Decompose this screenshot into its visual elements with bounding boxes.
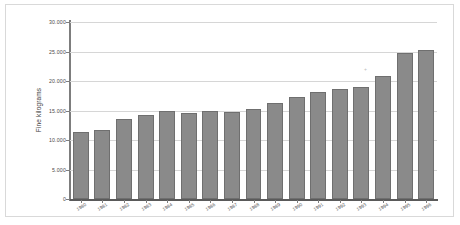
bar[interactable] [116,119,132,199]
y-tick-label: 5.000 [52,167,66,173]
bar[interactable] [310,92,326,199]
bar[interactable] [73,132,89,199]
bar[interactable] [94,130,110,199]
y-axis-label: Fine kilograms [35,88,42,132]
gridline [70,22,437,23]
y-tick-label: 20.000 [49,78,66,84]
chart-figure: Fine kilograms 05.00010.00015.00020.0002… [0,0,460,225]
bar[interactable] [246,109,262,199]
plot-area [70,22,437,199]
y-tick-label: 15.000 [49,108,66,114]
bar[interactable] [353,87,369,199]
bar[interactable] [267,103,283,199]
bar[interactable] [202,111,218,200]
bar[interactable] [397,53,413,199]
bar[interactable] [418,50,434,199]
bar[interactable] [375,76,391,199]
bar[interactable] [159,111,175,200]
bar[interactable] [138,115,154,199]
scan-artifact-mark: + [364,68,367,71]
bar[interactable] [289,97,305,199]
bar[interactable] [224,112,240,199]
bar[interactable] [332,89,348,199]
y-tick-label: 10.000 [49,137,66,143]
y-tick-label: 25.000 [49,49,66,55]
gridline [70,52,437,53]
y-tick-label: 30.000 [49,19,66,25]
bar[interactable] [181,113,197,199]
